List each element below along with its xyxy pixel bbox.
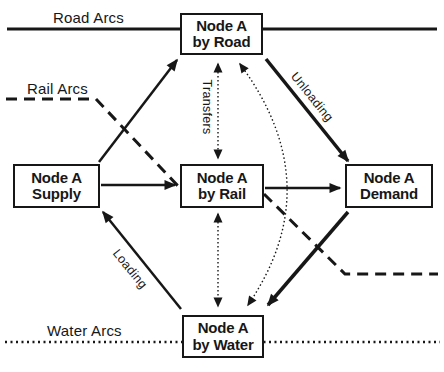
node-label-line: Node A — [196, 18, 247, 35]
diagram-canvas: Node A by Road Node A Supply Node A by R… — [0, 0, 444, 372]
node-a-supply-box: Node A Supply — [13, 164, 100, 208]
node-label-line: Supply — [32, 186, 81, 203]
node-a-by-water-box: Node A by Water — [182, 315, 264, 358]
node-label-line: Node A — [364, 170, 415, 187]
transfers-label: Transfers — [200, 79, 214, 134]
node-label-line: Demand — [360, 186, 418, 203]
node-label-line: Node A — [197, 170, 248, 187]
water-arcs-label: Water Arcs — [47, 322, 122, 339]
rail-arcs-label: Rail Arcs — [27, 80, 88, 97]
node-label-line: Node A — [198, 320, 249, 337]
node-a-demand-box: Node A Demand — [345, 164, 433, 208]
demand-to-water-arrow — [268, 212, 348, 305]
road-arcs-label: Road Arcs — [53, 9, 124, 26]
supply-to-road-arrow — [99, 60, 177, 162]
node-label-line: Node A — [31, 170, 82, 187]
node-a-by-rail-box: Node A by Rail — [180, 164, 264, 208]
node-a-by-road-box: Node A by Road — [180, 13, 263, 55]
node-label-line: by Rail — [198, 186, 246, 203]
node-label-line: by Road — [193, 34, 251, 51]
unloading-road-to-demand-arrow — [266, 59, 348, 161]
node-label-line: by Water — [192, 337, 253, 354]
